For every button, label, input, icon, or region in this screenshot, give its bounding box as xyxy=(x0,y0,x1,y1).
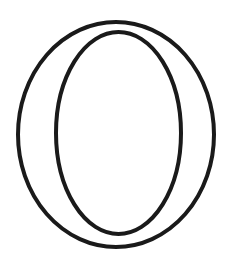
letter-o-icon xyxy=(0,0,234,268)
letter-o-graphic xyxy=(0,0,234,268)
inner-ellipse xyxy=(56,32,181,234)
outer-ellipse xyxy=(18,22,214,247)
